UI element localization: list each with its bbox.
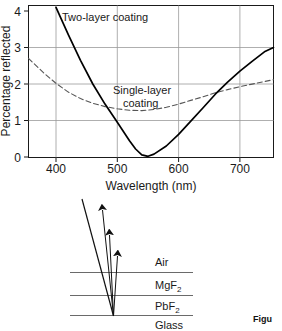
x-tick-label-400: 400 <box>46 162 66 176</box>
y-axis-title: Percentage reflected <box>0 26 13 137</box>
layer-label-pbf2-sub: 2 <box>175 306 180 315</box>
layer-label-pbf2: PbF2 <box>155 300 180 315</box>
y-tick-label-0: 0 <box>14 151 21 165</box>
y-tick-label-4: 4 <box>14 5 21 19</box>
chart-panel: 4 3 2 1 0 400 500 600 700 Wavelength (nm… <box>0 5 274 194</box>
x-tick-label-700: 700 <box>230 162 250 176</box>
figure-container: 4 3 2 1 0 400 500 600 700 Wavelength (nm… <box>0 0 282 331</box>
y-axis-ticks <box>24 11 29 157</box>
annotation-single-layer: Single-layer <box>113 84 171 96</box>
annotation-coating: coating <box>123 97 158 109</box>
layer-label-pbf2-text: PbF <box>155 300 175 312</box>
layer-label-mgf2-sub: 2 <box>177 285 182 294</box>
figure-svg: 4 3 2 1 0 400 500 600 700 Wavelength (nm… <box>0 0 282 331</box>
layer-label-glass: Glass <box>155 319 184 331</box>
x-tick-label-500: 500 <box>107 162 127 176</box>
layer-label-mgf2-text: MgF <box>155 279 177 291</box>
layer-label-air: Air <box>155 256 169 268</box>
y-tick-label-1: 1 <box>14 114 21 128</box>
y-tick-label-3: 3 <box>14 41 21 55</box>
x-axis-title: Wavelength (nm) <box>106 179 197 193</box>
figure-caption: Figu <box>253 314 272 324</box>
reflected-ray-air-mgf2 <box>103 210 114 316</box>
reflected-ray-pbf2-glass <box>114 256 118 316</box>
y-tick-label-2: 2 <box>14 78 21 92</box>
layer-label-mgf2: MgF2 <box>155 279 182 294</box>
incident-ray <box>82 199 114 316</box>
layer-diagram-panel: Air MgF2 PbF2 Glass <box>70 199 193 331</box>
annotation-two-layer-coating: Two-layer coating <box>62 11 148 23</box>
x-axis-ticks <box>56 158 240 163</box>
x-tick-label-600: 600 <box>169 162 189 176</box>
